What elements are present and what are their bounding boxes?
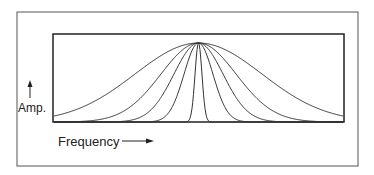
amplitude-curve-5 bbox=[54, 43, 343, 122]
plot-area-frame bbox=[53, 34, 344, 122]
diagram-canvas bbox=[0, 0, 374, 175]
amplitude-curve-2 bbox=[54, 43, 343, 122]
amplitude-curve-3 bbox=[54, 43, 343, 122]
amplitude-curves bbox=[54, 43, 343, 122]
right-arrow-icon bbox=[146, 139, 154, 144]
amplitude-curve-1 bbox=[54, 43, 343, 116]
amplitude-curve-4 bbox=[54, 43, 343, 122]
y-axis-label: Amp. bbox=[18, 101, 46, 115]
x-axis-label: Frequency bbox=[58, 134, 119, 149]
up-arrow-icon bbox=[28, 80, 33, 87]
